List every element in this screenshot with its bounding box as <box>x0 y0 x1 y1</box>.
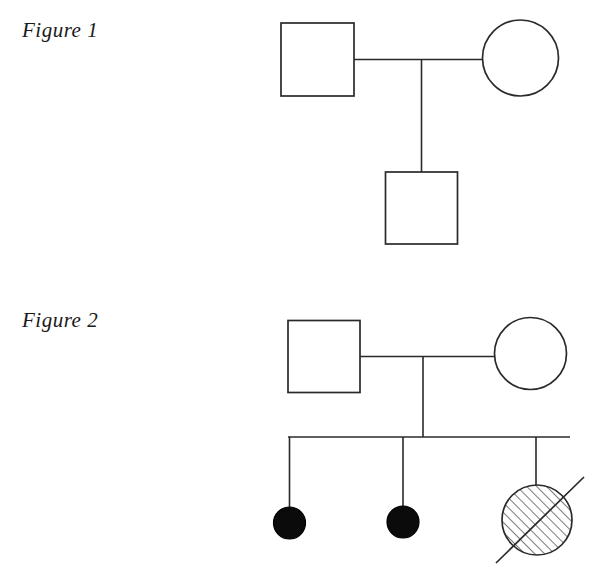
f1-mother-circle[interactable] <box>483 20 559 96</box>
pedigree-page: Figure 1 Figure 2 <box>0 0 606 579</box>
f2-affected-daughter-circle-2[interactable] <box>387 506 419 538</box>
f1-son-square[interactable] <box>386 172 458 244</box>
f2-affected-daughter-circle-1[interactable] <box>274 507 306 539</box>
f2-father-square[interactable] <box>288 321 360 393</box>
figure-1-pedigree <box>281 20 559 244</box>
f1-father-square[interactable] <box>281 23 354 96</box>
figure-2-pedigree <box>274 318 585 564</box>
f2-mother-circle[interactable] <box>495 318 567 390</box>
f2-hatched-daughter-circle[interactable] <box>502 485 572 555</box>
pedigree-canvas <box>0 0 606 579</box>
